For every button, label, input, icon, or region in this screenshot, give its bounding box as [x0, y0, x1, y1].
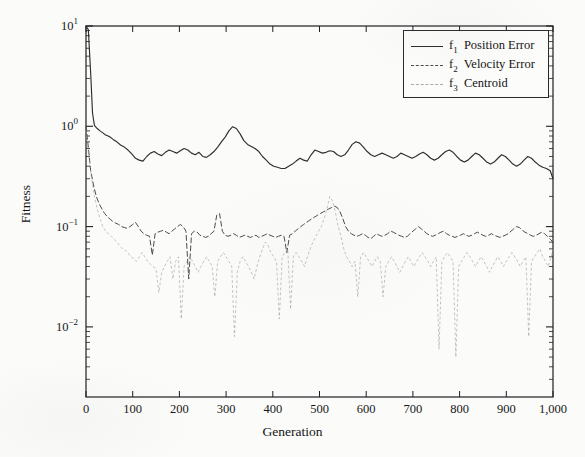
legend-label-f2: f2 Velocity Error: [449, 57, 535, 72]
x-tick-label-3: 300: [217, 402, 236, 417]
y-axis-label: Fitness: [18, 154, 34, 254]
x-axis-label: Generation: [0, 424, 585, 440]
x-tick-label-2: 200: [170, 402, 189, 417]
legend-item-f2: f2 Velocity Error: [404, 55, 548, 74]
y-tick-label-3: 10−2: [30, 319, 78, 334]
x-tick-label-10: 1,000: [539, 402, 567, 417]
legend-item-f1: f1 Position Error: [404, 36, 548, 55]
y-tick-label-1: 100: [30, 119, 78, 134]
x-tick-label-5: 500: [310, 402, 329, 417]
chart-legend: f1 Position Error f2 Velocity Error f3 C…: [403, 30, 549, 98]
legend-label-f1: f1 Position Error: [449, 38, 534, 53]
legend-item-f3: f3 Centroid: [404, 74, 548, 93]
legend-line-dashed-icon: [411, 60, 443, 70]
x-tick-label-6: 600: [357, 402, 376, 417]
y-tick-label-2: 10−1: [30, 219, 78, 234]
legend-line-dotted-icon: [411, 79, 443, 89]
x-tick-label-4: 400: [263, 402, 282, 417]
y-tick-label-0: 101: [30, 19, 78, 34]
legend-line-solid-icon: [411, 41, 443, 51]
x-tick-label-0: 0: [83, 402, 89, 417]
x-tick-label-7: 700: [404, 402, 423, 417]
series-line-3: [86, 131, 553, 357]
x-tick-label-8: 800: [450, 402, 469, 417]
x-tick-label-9: 900: [497, 402, 516, 417]
legend-label-f3: f3 Centroid: [449, 76, 508, 91]
series-line-2: [86, 126, 553, 279]
x-tick-label-1: 100: [123, 402, 142, 417]
fitness-convergence-figure: Fitness Generation 10110010−110−2 010020…: [0, 0, 585, 457]
